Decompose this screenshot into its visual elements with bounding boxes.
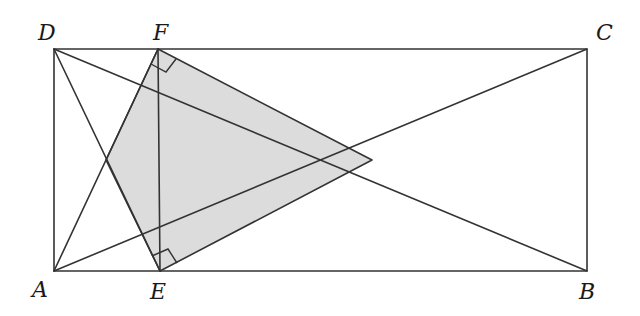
- label-b: B: [578, 279, 595, 304]
- label-f: F: [152, 20, 169, 45]
- label-a: A: [30, 277, 48, 302]
- label-e: E: [149, 279, 166, 304]
- label-c: C: [596, 20, 613, 45]
- geometry-diagram: A B C D E F: [0, 0, 640, 316]
- shaded-quadrilateral: [106, 49, 372, 271]
- label-d: D: [37, 20, 56, 45]
